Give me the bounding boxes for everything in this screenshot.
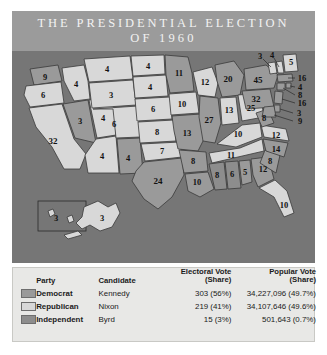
- ev-label-IL: 27: [205, 115, 215, 125]
- legend-party-header: Party: [36, 268, 98, 287]
- title-line-2: OF 1960: [12, 31, 315, 46]
- democrat-color-swatch: [21, 289, 36, 298]
- leader-line-NJ: [282, 99, 295, 103]
- ev-label-IN: 13: [225, 105, 234, 115]
- ev-label-AL-dem: 6: [230, 169, 234, 179]
- ev-label-GA: 12: [259, 164, 268, 174]
- ev-label-OH: 25: [247, 103, 256, 113]
- legend-candidate-nixon: Nixon: [99, 300, 161, 313]
- ev-label-MN: 11: [175, 68, 183, 78]
- page-title: THE PRESIDENTIAL ELECTION OF 1960: [12, 16, 315, 46]
- state-FL: [259, 180, 294, 217]
- ev-label-PA: 32: [252, 94, 262, 104]
- ev-label-VT: 3: [258, 51, 262, 61]
- title-line-1: THE PRESIDENTIAL ELECTION: [38, 16, 290, 30]
- ev-label-CA: 32: [49, 136, 59, 146]
- legend-row-independent: Independent Byrd 15 (3%) 501,643 (0.7%): [13, 313, 316, 326]
- ev-label-NJ: 16: [298, 98, 307, 108]
- legend-swatch-cell: [13, 287, 36, 300]
- ev-label-AL-rep: 5: [243, 167, 247, 177]
- ev-label-MO: 13: [183, 128, 192, 138]
- ev-label-NE: 6: [151, 104, 155, 114]
- legend-popular-header: Popular Vote (Share): [231, 268, 316, 287]
- hawaii-inset-box: [38, 201, 86, 231]
- legend-candidate-kennedy: Kennedy: [99, 287, 161, 300]
- legend-popular-democrat: 34,227,096 (49.7%): [231, 287, 316, 300]
- legend-swatch-cell: [13, 313, 36, 326]
- ev-label-KS: 8: [155, 127, 159, 137]
- state-AK: [76, 201, 120, 231]
- legend-electoral-democrat: 303 (56%): [161, 287, 231, 300]
- ev-label-NC: 14: [272, 144, 281, 154]
- ev-label-ME: 5: [289, 57, 293, 67]
- legend-popular-republican: 34,107,646 (49.6%): [231, 300, 316, 313]
- ev-label-WV: 8: [262, 113, 266, 123]
- ev-label-FL: 10: [280, 200, 289, 210]
- ev-label-IA: 10: [178, 99, 187, 109]
- legend-electoral-header-l2: (Share): [161, 276, 231, 284]
- ev-label-MD: 9: [298, 116, 302, 126]
- state-RI: [286, 83, 291, 88]
- legend-table: Party Candidate Electoral Vote (Share) P…: [13, 268, 316, 326]
- presidential-election-1960-infographic: THE PRESIDENTIAL ELECTION OF 1960 .s{str…: [0, 0, 327, 355]
- legend-party-independent: Independent: [36, 313, 98, 326]
- ev-label-AK: 3: [100, 213, 104, 223]
- state-HI-b: [67, 215, 74, 223]
- legend-electoral-republican: 219 (41%): [161, 300, 231, 313]
- legend-party-democrat: Democrat: [36, 287, 98, 300]
- leader-line-DE: [280, 109, 293, 113]
- ev-label-WY: 3: [109, 90, 113, 100]
- state-NH: [276, 61, 284, 73]
- ev-label-WI: 12: [201, 77, 210, 87]
- ev-label-HI: 3: [54, 213, 58, 223]
- ev-label-MI: 20: [224, 74, 234, 84]
- legend-swatch-header: [13, 268, 36, 287]
- state-NJ: [274, 91, 283, 104]
- legend-electoral-header: Electoral Vote (Share): [161, 268, 231, 287]
- legend-candidate-byrd: Byrd: [99, 313, 161, 326]
- legend-popular-header-l2: (Share): [231, 276, 316, 284]
- independent-color-swatch: [21, 315, 36, 324]
- legend-row-democrat: Democrat Kennedy 303 (56%) 34,227,096 (4…: [13, 287, 316, 300]
- state-CT: [277, 83, 285, 90]
- ev-label-TN: 11: [227, 150, 235, 160]
- leader-line-CT: [283, 88, 295, 95]
- us-electoral-map: .s{stroke:#3a3a3a;stroke-width:.8;} .dem…: [12, 51, 315, 263]
- ev-label-TX: 24: [154, 176, 164, 186]
- legend-popular-independent: 501,643 (0.7%): [231, 313, 316, 326]
- legend-row-republican: Republican Nixon 219 (41%) 34,107,646 (4…: [13, 300, 316, 313]
- legend-electoral-independent: 15 (3%): [161, 313, 231, 326]
- ev-label-NV: 3: [78, 116, 82, 126]
- legend-candidate-header: Candidate: [99, 268, 161, 287]
- ev-label-KY: 10: [234, 129, 243, 139]
- legend-swatch-cell: [13, 300, 36, 313]
- state-VT: [268, 62, 277, 74]
- aleutian-chain: [64, 231, 82, 239]
- ev-label-MS: 8: [215, 170, 219, 180]
- ev-label-VA: 12: [272, 130, 281, 140]
- leader-line-MD: [274, 115, 293, 121]
- ev-label-AR: 8: [191, 156, 195, 166]
- map-svg: .s{stroke:#3a3a3a;stroke-width:.8;} .dem…: [12, 51, 315, 263]
- legend-panel: Party Candidate Electoral Vote (Share) P…: [12, 267, 315, 342]
- legend-header-row: Party Candidate Electoral Vote (Share) P…: [13, 268, 316, 287]
- ev-label-NY: 45: [254, 75, 264, 85]
- ev-label-WA: 9: [43, 72, 47, 82]
- ev-label-OR: 6: [41, 90, 45, 100]
- legend-party-republican: Republican: [36, 300, 98, 313]
- ev-label-LA: 10: [193, 177, 202, 187]
- header-bar: THE PRESIDENTIAL ELECTION OF 1960: [12, 11, 315, 51]
- ev-label-SC: 8: [268, 156, 272, 166]
- republican-color-swatch: [21, 302, 36, 311]
- ev-label-CO: 6: [112, 119, 116, 129]
